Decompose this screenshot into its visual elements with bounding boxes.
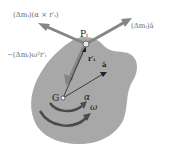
- tangential-force-arrow: [38, 23, 86, 44]
- centripetal-force-label: −(Δmᵢ)ω²r′ᵢ: [7, 52, 46, 59]
- acceleration-vector-label: ā: [102, 61, 107, 68]
- point-p-marker: [83, 41, 89, 47]
- alpha-label: α: [84, 93, 90, 102]
- point-g-marker: [61, 96, 65, 100]
- rigid-body-shape: [31, 37, 137, 144]
- position-vector-label: r′ᵢ: [88, 55, 95, 62]
- point-p-label: Pᵢ: [80, 30, 88, 39]
- omega-label: ω: [90, 103, 97, 112]
- center-of-mass-label: G: [52, 94, 59, 103]
- translational-force-label: (Δmᵢ)ā: [131, 23, 154, 30]
- tangential-force-label: (Δmᵢ)(α × r′ᵢ): [13, 12, 58, 19]
- translational-force-arrow: [86, 18, 132, 44]
